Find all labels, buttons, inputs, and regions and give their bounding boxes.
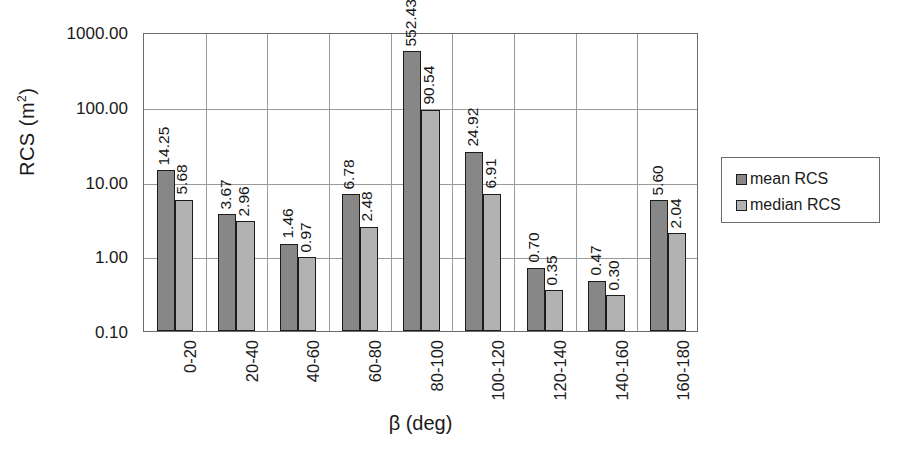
x-axis-tick-labels: 0-2020-4040-6060-8080-100100-120120-1401… (143, 338, 698, 408)
bar-median-rcs[interactable] (483, 194, 501, 332)
y-axis-tick-label: 1000.00 (67, 25, 128, 42)
x-axis-tick-label: 80-100 (429, 340, 446, 391)
bar-value-label: 24.92 (464, 108, 480, 147)
bar-mean-rcs[interactable] (280, 244, 298, 331)
bar-group: 3.672.96 (206, 34, 268, 331)
x-axis-tick-label: 100-120 (490, 340, 507, 401)
bar-group: 1.460.97 (267, 34, 329, 331)
legend-swatch-icon (736, 174, 747, 185)
rcs-bar-chart-figure: RCS (m2) 1000.00100.0010.001.000.10 14.2… (0, 0, 919, 453)
x-axis-tick-label: 20-40 (244, 340, 261, 382)
bar-group: 24.926.91 (452, 34, 514, 331)
bar-value-label: 552.43 (402, 0, 418, 46)
bar-group: 6.782.48 (329, 34, 391, 331)
bar-value-label: 14.25 (156, 126, 172, 165)
bar-value-label: 0.35 (544, 255, 560, 285)
y-axis-tick-label: 10.00 (85, 174, 128, 191)
bar-value-label: 2.04 (667, 198, 683, 228)
y-axis-title-tail: ) (16, 88, 38, 95)
bar-median-rcs[interactable] (298, 257, 316, 331)
bar-group: 0.700.35 (514, 34, 576, 331)
bar-value-label: 0.30 (606, 260, 622, 290)
bar-value-label: 0.70 (526, 233, 542, 263)
x-axis-tick-label: 120-140 (552, 340, 569, 401)
bar-group: 552.4390.54 (391, 34, 453, 331)
legend-item-label: median RCS (750, 197, 841, 213)
y-axis-title-text: RCS (m (16, 102, 38, 176)
legend-item[interactable]: mean RCS (736, 167, 879, 191)
bar-median-rcs[interactable] (175, 200, 193, 331)
bar-group: 0.470.30 (576, 34, 638, 331)
bar-value-label: 0.97 (297, 222, 313, 252)
y-axis-tick-label: 100.00 (76, 99, 128, 116)
bar-median-rcs[interactable] (360, 227, 378, 331)
bar-median-rcs[interactable] (668, 233, 686, 331)
x-axis-tick-label: 0-20 (182, 340, 199, 373)
bar-value-label: 90.54 (421, 66, 437, 105)
bar-value-label: 6.91 (482, 158, 498, 188)
bar-mean-rcs[interactable] (465, 152, 483, 331)
bar-value-label: 6.78 (341, 159, 357, 189)
y-axis-tick-label: 0.10 (95, 324, 128, 341)
legend-item-label: mean RCS (750, 171, 828, 187)
bar-value-label: 2.96 (236, 186, 252, 216)
bars-layer: 14.255.683.672.961.460.976.782.48552.439… (144, 34, 697, 331)
chart-legend: mean RCSmedian RCS (721, 157, 880, 223)
y-axis-tick-label: 1.00 (95, 249, 128, 266)
bar-group: 14.255.68 (144, 34, 206, 331)
bar-group: 5.602.04 (637, 34, 699, 331)
x-axis-title: β (deg) (143, 412, 698, 435)
x-axis-tick-label: 160-180 (675, 340, 692, 401)
bar-mean-rcs[interactable] (650, 200, 668, 331)
x-axis-tick-label: 60-80 (367, 340, 384, 382)
legend-item[interactable]: median RCS (736, 193, 879, 217)
y-axis-title: RCS (m2) (15, 57, 39, 207)
bar-value-label: 0.47 (587, 246, 603, 276)
x-axis-tick-label: 140-160 (614, 340, 631, 401)
y-axis-title-exponent: 2 (15, 95, 29, 102)
bar-value-label: 2.48 (359, 192, 375, 222)
y-axis-tick-labels: 1000.00100.0010.001.000.10 (46, 33, 134, 332)
bar-median-rcs[interactable] (421, 110, 439, 331)
bar-value-label: 5.68 (174, 165, 190, 195)
bar-median-rcs[interactable] (545, 290, 563, 331)
plot-area: 14.255.683.672.961.460.976.782.48552.439… (143, 33, 698, 332)
bar-value-label: 3.67 (217, 179, 233, 209)
bar-value-label: 1.46 (279, 209, 295, 239)
bar-median-rcs[interactable] (606, 295, 624, 331)
bar-value-label: 5.60 (649, 165, 665, 195)
bar-mean-rcs[interactable] (218, 214, 236, 331)
x-axis-tick-label: 40-60 (305, 340, 322, 382)
bar-median-rcs[interactable] (236, 221, 254, 331)
legend-swatch-icon (736, 200, 747, 211)
